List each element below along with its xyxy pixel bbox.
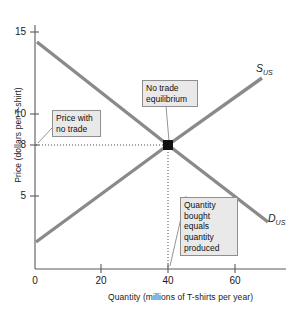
equilibrium-leader-line xyxy=(166,106,169,141)
callout-price-with-no-trade: Price with no trade xyxy=(52,110,101,137)
x-tick-label-20: 20 xyxy=(89,275,113,286)
callout-quantity-bought-equals-produced: Quantity bought equals quantity produced xyxy=(180,197,238,256)
supply-demand-chart: 15 10 8 5 0 20 40 60 Price (dollars per … xyxy=(0,0,290,309)
plot-area xyxy=(0,0,290,309)
supply-curve-letter: S xyxy=(256,62,263,74)
callout-no-trade-equilibrium: No trade equilibrium xyxy=(142,80,198,107)
y-tick-label-15: 15 xyxy=(4,26,26,37)
supply-curve-label: SUS xyxy=(256,62,273,76)
demand-curve-label: DUS xyxy=(268,212,285,226)
x-tick-label-40: 40 xyxy=(156,275,180,286)
y-axis-title: Price (dollars per T-shirt) xyxy=(13,80,23,190)
equilibrium-marker xyxy=(163,140,173,150)
x-axis-title: Quantity (millions of T-shirts per year) xyxy=(108,292,253,302)
demand-curve-letter: D xyxy=(268,212,276,224)
x-tick-label-60: 60 xyxy=(223,275,247,286)
demand-curve-subscript: US xyxy=(276,219,286,226)
x-tick-label-0: 0 xyxy=(23,275,47,286)
price-leader-line xyxy=(38,128,52,143)
y-tick-label-5: 5 xyxy=(4,190,26,201)
supply-curve-subscript: US xyxy=(263,69,273,76)
